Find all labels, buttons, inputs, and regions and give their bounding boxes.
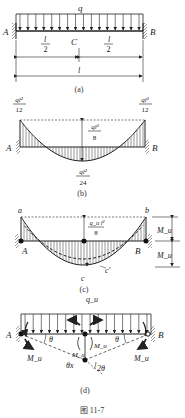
mid-height-den: 8 [94, 229, 98, 237]
moment-arrow-left [25, 339, 33, 349]
moment-arrow-right [138, 339, 146, 349]
moment-arc-mid-right [90, 337, 92, 350]
left-end-moment-num: ql² [15, 96, 23, 104]
theta-left-label: θ [49, 335, 53, 344]
fixed-support-right [148, 234, 152, 248]
mid-height-num: q_u l² [89, 219, 105, 226]
figure-caption: 图 11-7 [80, 406, 104, 415]
mid-height-num: ql² [91, 123, 99, 131]
fixed-support-right [151, 326, 155, 342]
moment-curve [20, 120, 145, 161]
plastic-hinge-right [144, 239, 149, 244]
moment-arrow-mid-right [90, 320, 102, 325]
support-label-b: B [150, 27, 156, 37]
caption-a: (a) [75, 85, 84, 94]
distributed-load-arrows [25, 314, 147, 333]
fixed-support-right [145, 140, 149, 154]
half-span-right-den: 2 [107, 45, 111, 54]
mid-height-den: 8 [93, 134, 97, 142]
figure-11-7: q A B C l 2 l 2 l (a) ql² 12 ql² 12 [0, 0, 185, 418]
mid-moment-num: ql² [79, 168, 87, 176]
support-label-a: A [5, 143, 12, 153]
point-c-prime-label: c' [105, 266, 111, 275]
plastic-hinge-mid [82, 239, 87, 244]
mu-label-right: M_u [133, 354, 149, 363]
caption-c: (c) [80, 285, 89, 294]
midpoint-label-c: C [71, 37, 78, 47]
support-label-b: B [152, 143, 158, 153]
mu-label-left: M_u [26, 354, 42, 363]
plastic-hinge-mid [83, 332, 88, 337]
mid-moment-den: 24 [80, 179, 88, 187]
half-span-left-num: l [44, 35, 47, 44]
panel-a: q A B C l 2 l 2 l (a) [2, 3, 156, 94]
fixed-support-left [12, 23, 16, 39]
fixed-support-left [16, 140, 20, 154]
angle-arc-left [44, 334, 46, 343]
panel-c: a b A B q_u l² 8 c c' M_u M_u (c) [15, 206, 180, 294]
mu-label-top: M_u [156, 226, 172, 235]
deflection-label: θx [66, 361, 74, 370]
half-span-left-den: 2 [44, 45, 48, 54]
distributed-load-arrows [20, 14, 139, 30]
fixed-support-left [16, 326, 20, 342]
mu-label-mid-left: M_u [71, 351, 85, 359]
plastic-hinge-right [146, 332, 150, 336]
two-theta-label: 2θ [97, 364, 105, 373]
left-end-moment-den: 12 [16, 106, 24, 114]
point-c-label: c [81, 274, 85, 283]
support-label-a: A [21, 246, 28, 256]
moment-arc-mid-left [78, 337, 80, 350]
load-label: q [78, 3, 83, 13]
span-label: l [78, 66, 81, 75]
support-label-b: B [158, 330, 164, 340]
caption-b: (b) [77, 189, 87, 198]
fixed-support-left [15, 234, 19, 248]
mu-label-mid-right: M_u [93, 342, 107, 350]
panel-b: ql² 12 ql² 12 A B ql² 8 ql² 24 (b) [5, 96, 158, 198]
panel-d: q_u A B θ θ 2θ θx M_u M [5, 295, 164, 395]
point-b-label: b [145, 206, 149, 215]
angle-arc-right [124, 334, 126, 343]
caption-d: (d) [80, 386, 90, 395]
theta-right-label: θ [115, 335, 119, 344]
plastic-hinge-left [19, 239, 24, 244]
support-label-a: A [5, 330, 12, 340]
point-a-label: a [18, 206, 22, 215]
load-label: q_u [86, 295, 98, 304]
fixed-support-right [143, 23, 147, 39]
right-end-moment-num: ql² [141, 96, 149, 104]
support-label-b: B [135, 246, 141, 256]
mu-label-bottom: M_u [156, 251, 172, 260]
support-label-a: A [2, 27, 9, 37]
right-end-moment-den: 12 [142, 106, 150, 114]
half-span-right-num: l [108, 35, 111, 44]
